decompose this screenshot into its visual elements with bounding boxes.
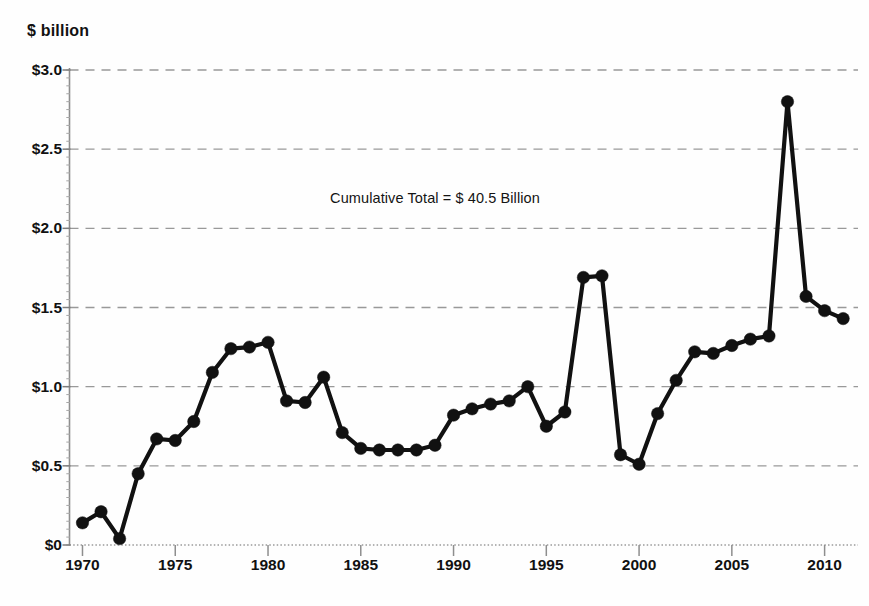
- x-axis-tick-label: 1995: [529, 556, 563, 574]
- x-axis-tick-label: 1970: [65, 556, 99, 574]
- x-axis-ticks: [82, 545, 824, 556]
- chart-canvas: [0, 0, 869, 606]
- gridlines: [70, 70, 859, 545]
- y-axis-minor-ticks: [63, 70, 71, 545]
- x-axis-tick-label: 1990: [436, 556, 470, 574]
- chart-root: $ billion $0$0.5$1.0$1.5$2.0$2.5$3.0 197…: [0, 0, 869, 606]
- x-axis-tick-label: 2005: [715, 556, 749, 574]
- x-axis-tick-label: 2010: [807, 556, 841, 574]
- x-axis-tick-label: 1975: [158, 556, 192, 574]
- data-point-markers: [76, 95, 849, 544]
- cumulative-total-annotation: Cumulative Total = $ 40.5 Billion: [330, 190, 540, 206]
- x-axis-tick-label: 1980: [251, 556, 285, 574]
- plot-area: [0, 0, 869, 606]
- x-axis-tick-label: 2000: [622, 556, 656, 574]
- x-axis-tick-label: 1985: [344, 556, 378, 574]
- data-line-series: [82, 102, 843, 539]
